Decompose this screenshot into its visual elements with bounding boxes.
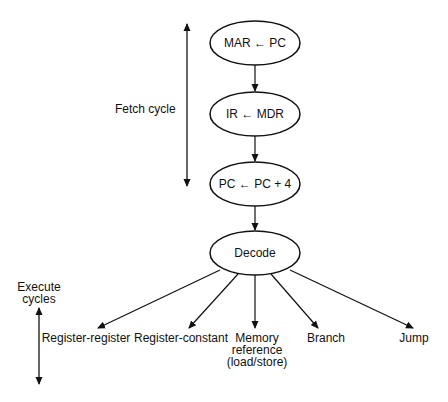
node-decode-label: Decode xyxy=(234,246,275,260)
branch-label-reg-const: Register-constant xyxy=(134,332,228,345)
branch-label-jump: Jump xyxy=(399,332,428,345)
fetch-cycle-label: Fetch cycle xyxy=(115,103,176,116)
node-ir-label: IR ← MDR xyxy=(226,107,284,121)
branch-label-reg-reg: Register-register xyxy=(42,332,131,345)
branch-label-branch: Branch xyxy=(307,332,345,345)
execute-label-line2: cycles xyxy=(22,293,55,306)
branch-label-mem-ref-line3: (load/store) xyxy=(227,356,288,369)
edge-decode-jump xyxy=(290,270,413,328)
edge-decode-reg-const xyxy=(189,274,238,328)
edge-decode-reg-reg xyxy=(98,270,220,328)
node-mar-label: MAR ← PC xyxy=(224,36,286,50)
edge-decode-branch xyxy=(271,274,318,328)
node-pc-label: PC ← PC + 4 xyxy=(219,177,291,191)
